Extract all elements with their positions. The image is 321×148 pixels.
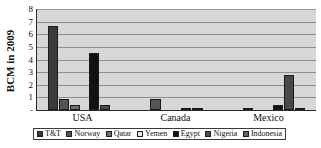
legend-item-yemen[interactable]: Yemen [137,130,167,138]
legend-label: Egypt [181,130,200,138]
plot-inner [37,9,316,110]
bar-usa-t-t [48,26,58,110]
legend-label: T&T [45,130,61,138]
bar-mexico-nigeria [284,75,294,110]
x-axis-category-labels: USACanadaMexico [36,112,315,123]
legend-swatch-icon [173,131,179,137]
x-category-label-usa: USA [36,112,129,123]
chart-legend: T&TNorwayQatarYemenEgyptNigeriaIndonesia [33,128,286,140]
legend-label: Yemen [145,130,167,138]
legend-item-egypt[interactable]: Egypt [173,130,200,138]
y-axis-title: BCM in 2009 [4,29,16,91]
legend-item-nigeria[interactable]: Nigeria [205,130,237,138]
y-tick--: - [30,106,33,115]
bar-mexico-norway [243,108,253,110]
legend-swatch-icon [66,131,72,137]
bar-usa-qatar [70,105,80,110]
bar-group-inner [140,9,213,110]
bar-mexico-indonesia [295,108,305,110]
legend-item-norway[interactable]: Norway [66,130,100,138]
bar-group-usa [37,9,130,110]
y-tick-6: 6 [29,30,34,39]
legend-swatch-icon [37,131,43,137]
bar-usa-egypt [89,53,99,110]
legend-item-t-t[interactable]: T&T [37,130,61,138]
legend-swatch-icon [205,131,211,137]
y-axis-tick-labels: -12345678 [21,9,34,110]
bar-canada-nigeria [192,108,203,110]
legend-label: Nigeria [213,130,237,138]
y-tick-5: 5 [29,42,34,51]
bar-canada-norway [150,99,161,110]
bar-chart-figure: BCM in 2009 -12345678 USACanadaMexico T&… [0,0,321,148]
plot-area [36,9,316,111]
legend-swatch-icon [137,131,143,137]
bar-usa-norway [59,99,69,110]
legend-swatch-icon [243,131,249,137]
legend-swatch-icon [106,131,112,137]
x-category-label-canada: Canada [129,112,222,123]
legend-label: Norway [74,130,100,138]
bar-mexico-egypt [273,105,283,110]
y-tick-4: 4 [29,55,34,64]
bar-canada-egypt [181,108,192,110]
y-tick-1: 1 [29,93,34,102]
bar-usa-nigeria [100,105,110,110]
bar-group-inner [233,9,306,110]
bar-group-canada [130,9,223,110]
legend-item-qatar[interactable]: Qatar [106,130,132,138]
bar-group-inner [47,9,120,110]
bar-groups [37,9,316,110]
y-tick-3: 3 [29,68,34,77]
legend-label: Qatar [114,130,132,138]
y-tick-8: 8 [29,5,34,14]
bar-group-mexico [223,9,316,110]
y-tick-2: 2 [29,80,34,89]
x-category-label-mexico: Mexico [222,112,315,123]
y-tick-7: 7 [29,17,34,26]
y-axis-title-container: BCM in 2009 [0,8,20,113]
legend-item-indonesia[interactable]: Indonesia [243,130,282,138]
legend-label: Indonesia [251,130,282,138]
